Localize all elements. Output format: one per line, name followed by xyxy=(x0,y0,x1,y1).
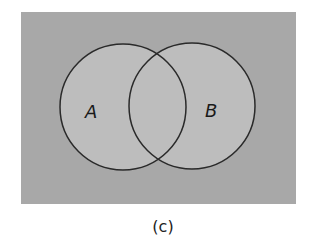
set-a-label: A xyxy=(84,101,97,122)
figure-caption: (c) xyxy=(152,217,173,236)
venn-diagram: A B (c) xyxy=(0,0,309,246)
set-b-label: B xyxy=(205,100,217,121)
